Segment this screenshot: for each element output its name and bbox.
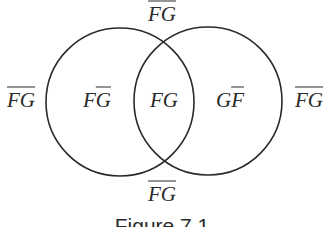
label-part: F: [83, 88, 96, 112]
label-part: G: [163, 88, 178, 112]
figure-caption: Figure 7.1: [115, 214, 210, 227]
label-part: G: [216, 88, 231, 112]
region-label-right-outside: FG: [295, 90, 323, 111]
region-label-left-outside: FG: [7, 90, 35, 111]
region-label-top-outside: FG: [148, 4, 176, 25]
label-part: F: [148, 182, 161, 206]
label-part: F: [231, 88, 244, 112]
label-part: F: [295, 88, 308, 112]
label-part: G: [161, 182, 176, 206]
label-part: F: [7, 88, 20, 112]
label-part: F: [150, 88, 163, 112]
region-label-intersection: FG: [150, 90, 178, 111]
region-label-bottom-outside: FG: [148, 184, 176, 205]
label-part: F: [148, 2, 161, 26]
label-part: G: [20, 88, 35, 112]
region-label-g-only: GF: [216, 90, 244, 111]
label-part: G: [96, 88, 111, 112]
label-part: G: [161, 2, 176, 26]
region-label-f-only: FG: [83, 90, 111, 111]
label-part: G: [308, 88, 323, 112]
